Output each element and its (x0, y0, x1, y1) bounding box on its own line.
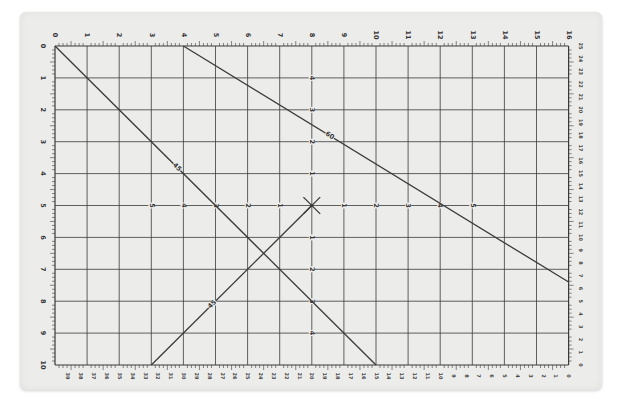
top-scale-label: 13 (469, 30, 477, 39)
bottom-scale-label: 37 (91, 373, 97, 380)
bottom-scale-label: 12 (412, 373, 418, 380)
bottom-scale-label: 24 (258, 373, 264, 380)
bottom-scale-label: 29 (194, 373, 200, 380)
right-scale-label: 2 (578, 338, 584, 342)
center-vertical-label: 4 (308, 331, 316, 336)
center-horizontal-label: 4 (180, 203, 188, 208)
bottom-scale-label: 4 (515, 374, 521, 378)
left-scale-label: 0 (39, 44, 47, 49)
right-scale-label: 9 (578, 248, 584, 252)
right-scale-label: 17 (578, 145, 584, 152)
left-scale-label: 8 (39, 299, 47, 304)
bottom-scale-label: 22 (284, 373, 290, 380)
right-scale-label: 11 (578, 221, 584, 228)
right-scale-label: 8 (578, 261, 584, 265)
left-scale-label: 7 (39, 267, 47, 272)
top-scale-label: 6 (244, 33, 252, 38)
center-vertical-label: 2 (308, 139, 316, 144)
top-scale-label: 3 (148, 33, 156, 38)
bottom-scale-label: 7 (476, 374, 482, 378)
bottom-scale-label: 26 (232, 373, 238, 380)
right-scale-label: 21 (578, 94, 584, 101)
right-scale-label: 15 (578, 170, 584, 177)
bottom-scale-label: 34 (130, 373, 136, 380)
top-scale-label: 2 (115, 33, 123, 38)
bottom-scale-label: 38 (78, 373, 84, 380)
center-horizontal-label: 1 (340, 203, 348, 208)
top-scale-label: 5 (212, 33, 220, 38)
right-scale-label: 16 (578, 157, 584, 164)
left-scale-label: 3 (39, 139, 47, 144)
center-horizontal-label: 2 (244, 203, 252, 208)
center-vertical-label: 1 (308, 171, 316, 176)
top-scale-label: 0 (51, 33, 59, 38)
bottom-scale-label: 23 (271, 373, 277, 380)
top-scale-label: 16 (565, 30, 573, 40)
bottom-scale-label: 33 (143, 373, 149, 380)
angle-label: 60 (324, 130, 336, 142)
bottom-scale-label: 30 (181, 373, 187, 380)
right-scale-label: 23 (578, 68, 584, 75)
bottom-scale-label: 21 (297, 373, 303, 380)
mat-grid: 0123456789101112131415160123456789102524… (0, 0, 617, 411)
right-scale-label: 20 (578, 106, 584, 113)
bottom-scale-label: 10 (438, 373, 444, 380)
right-scale-label: 1 (578, 350, 584, 354)
center-horizontal-label: 5 (469, 203, 477, 208)
right-scale-label: 18 (578, 132, 584, 139)
angle-line-45 (151, 206, 311, 366)
top-scale-label: 9 (340, 33, 348, 38)
bottom-scale-label: 16 (361, 373, 367, 380)
center-horizontal-label: 1 (276, 203, 284, 208)
bottom-scale-label: 9 (451, 374, 457, 378)
center-horizontal-label: 5 (148, 203, 156, 208)
bottom-scale-label: 1 (553, 374, 559, 378)
right-scale-label: 5 (578, 299, 584, 303)
bottom-scale-label: 36 (104, 373, 110, 380)
bottom-scale-label: 25 (245, 373, 251, 380)
bottom-scale-label: 3 (528, 374, 534, 378)
center-horizontal-label: 3 (404, 203, 412, 208)
center-vertical-label: 3 (308, 108, 316, 113)
center-horizontal-label: 2 (372, 203, 380, 208)
center-vertical-label: 4 (308, 76, 316, 81)
bottom-scale-label: 13 (399, 373, 405, 380)
right-scale-label: 0 (578, 363, 584, 367)
bottom-scale-label: 18 (335, 373, 341, 380)
center-vertical-label: 2 (308, 267, 316, 272)
right-scale-label: 24 (578, 55, 584, 62)
center-dot (310, 204, 313, 207)
center-vertical-label: 1 (308, 235, 316, 240)
bottom-scale-label: 0 (566, 374, 572, 378)
bottom-scale-label: 31 (168, 373, 174, 380)
left-scale-label: 10 (39, 360, 47, 370)
right-scale-label: 12 (578, 208, 584, 215)
bottom-scale-label: 35 (117, 373, 123, 380)
bottom-scale-label: 5 (502, 374, 508, 378)
right-scale-label: 13 (578, 196, 584, 203)
bottom-scale-label: 8 (464, 374, 470, 378)
right-scale-label: 25 (578, 43, 584, 50)
top-scale-label: 11 (404, 30, 412, 40)
right-scale-label: 3 (578, 325, 584, 329)
top-scale-label: 14 (501, 30, 509, 40)
bottom-scale-label: 2 (541, 374, 547, 378)
left-scale-label: 1 (39, 76, 47, 81)
right-scale-label: 10 (578, 234, 584, 241)
left-scale-label: 4 (39, 171, 47, 176)
top-scale-label: 10 (372, 30, 380, 40)
bottom-scale-label: 19 (322, 373, 328, 380)
bottom-scale-label: 20 (309, 373, 315, 380)
left-scale-label: 9 (39, 331, 47, 336)
bottom-scale-label: 32 (155, 373, 161, 380)
bottom-scale-label: 27 (220, 373, 226, 380)
right-scale-label: 4 (578, 312, 584, 316)
top-scale-label: 12 (436, 30, 444, 39)
bottom-scale-label: 11 (425, 373, 431, 380)
top-scale-label: 1 (83, 33, 91, 38)
bottom-scale-label: 28 (207, 373, 213, 380)
right-scale-label: 19 (578, 119, 584, 126)
left-scale-label: 6 (39, 235, 47, 240)
top-scale-label: 15 (533, 30, 541, 40)
right-scale-label: 6 (578, 287, 584, 291)
